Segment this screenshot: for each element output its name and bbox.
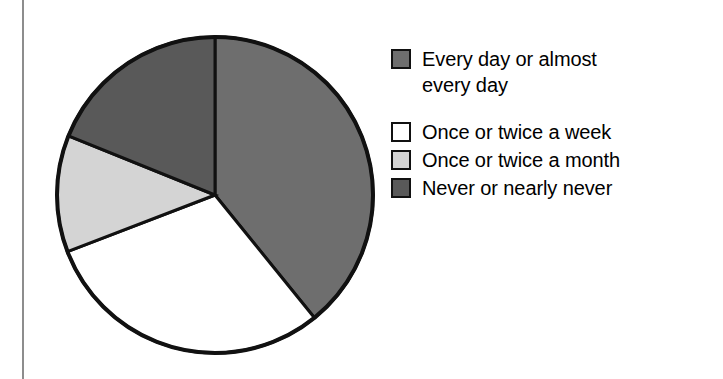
legend-item-once-twice-week[interactable]: Once or twice a week xyxy=(391,119,711,145)
legend-item-never[interactable]: Never or nearly never xyxy=(391,175,711,201)
legend-swatch-never xyxy=(391,178,411,198)
legend-swatch-once-twice-month xyxy=(391,150,411,170)
legend-label-once-twice-month: Once or twice a month xyxy=(422,147,620,173)
legend-label-every-day: Every day or almost every day xyxy=(422,46,597,98)
pie-svg xyxy=(54,34,376,356)
pie-chart-graphic xyxy=(54,34,376,356)
left-divider-rule xyxy=(22,0,24,379)
pie-chart-figure: Every day or almost every day Once or tw… xyxy=(0,0,723,379)
legend-swatch-every-day xyxy=(391,49,411,69)
legend: Every day or almost every day Once or tw… xyxy=(391,46,711,203)
legend-item-every-day[interactable]: Every day or almost every day xyxy=(391,46,711,98)
legend-item-once-twice-month[interactable]: Once or twice a month xyxy=(391,147,711,173)
legend-swatch-once-twice-week xyxy=(391,122,411,142)
legend-label-once-twice-week: Once or twice a week xyxy=(422,119,611,145)
legend-label-never: Never or nearly never xyxy=(422,175,612,201)
